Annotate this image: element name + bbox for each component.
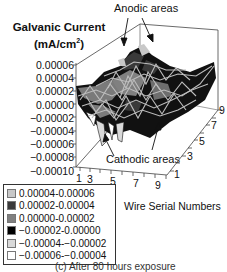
legend-item: 0.00000-0.00002 bbox=[7, 212, 112, 225]
legend-label: 0.00000-0.00002 bbox=[19, 213, 95, 224]
y-tick: 3 bbox=[187, 150, 193, 162]
legend-swatch bbox=[7, 189, 16, 198]
legend-swatch bbox=[7, 251, 16, 260]
y-tick: 1 bbox=[174, 168, 180, 180]
legend-label: 0.00004-0.00006 bbox=[19, 188, 95, 199]
legend-swatch bbox=[7, 239, 16, 248]
figure-caption: (c) After 80 hours exposure bbox=[55, 261, 176, 272]
legend-item: −0.00004-−0.00002 bbox=[7, 237, 112, 250]
legend-item: 0.00004-0.00006 bbox=[7, 187, 112, 200]
legend-label: −0.00002-0.00000 bbox=[19, 225, 100, 236]
legend: 0.00004-0.00006 0.00002-0.00004 0.00000-… bbox=[3, 184, 116, 265]
y-tick: 9 bbox=[219, 104, 225, 116]
x-tick: 9 bbox=[155, 179, 161, 191]
x-tick: 7 bbox=[133, 177, 139, 189]
x-tick: 1 bbox=[76, 172, 82, 184]
legend-label: −0.00004-−0.00002 bbox=[19, 238, 106, 249]
y-tick: 7 bbox=[211, 119, 217, 131]
legend-label: −0.00006-−0.00004 bbox=[19, 250, 106, 261]
legend-item: 0.00002-0.00004 bbox=[7, 200, 112, 213]
y-tick: 5 bbox=[199, 135, 205, 147]
x-axis-label: Wire Serial Numbers bbox=[124, 200, 221, 212]
legend-swatch bbox=[7, 201, 16, 210]
legend-swatch bbox=[7, 226, 16, 235]
legend-item: −0.00002-0.00000 bbox=[7, 225, 112, 238]
legend-swatch bbox=[7, 214, 16, 223]
legend-label: 0.00002-0.00004 bbox=[19, 200, 95, 211]
